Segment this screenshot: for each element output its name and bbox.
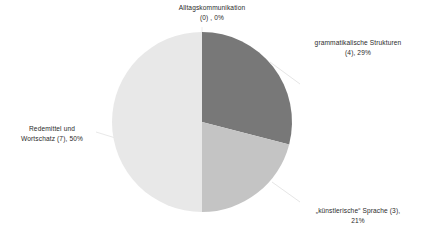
pie-label-kuenstlerische-sprache-name: „künstlerische“ Sprache (3),	[296, 206, 420, 216]
pie-label-grammatikalische-strukturen: grammatikalische Strukturen (4), 29%	[296, 38, 420, 57]
pie-slice-redemittel-wortschatz[interactable]	[112, 32, 202, 212]
pie-label-alltagskommunikation: Alltagskommunikation (0) , 0%	[151, 3, 273, 22]
pie-label-alltagskommunikation-name: Alltagskommunikation	[151, 3, 273, 13]
pie-label-grammatikalische-strukturen-name: grammatikalische Strukturen	[296, 38, 420, 48]
pie-label-grammatikalische-strukturen-value: (4), 29%	[296, 48, 420, 58]
pie-label-alltagskommunikation-value: (0) , 0%	[151, 13, 273, 23]
pie-label-kuenstlerische-sprache-value: 21%	[296, 216, 420, 226]
pie-label-redemittel-wortschatz-value: Wortschatz (7), 50%	[2, 134, 102, 144]
pie-chart: Alltagskommunikation (0) , 0% grammatika…	[0, 0, 423, 240]
pie-label-redemittel-wortschatz: Redemittel und Wortschatz (7), 50%	[2, 124, 102, 143]
pie-chart-canvas	[0, 0, 423, 240]
pie-label-redemittel-wortschatz-name: Redemittel und	[2, 124, 102, 134]
pie-label-kuenstlerische-sprache: „künstlerische“ Sprache (3), 21%	[296, 206, 420, 225]
pie-slices	[112, 32, 292, 212]
leader-line-kuenstlerische-sprache	[272, 182, 300, 202]
